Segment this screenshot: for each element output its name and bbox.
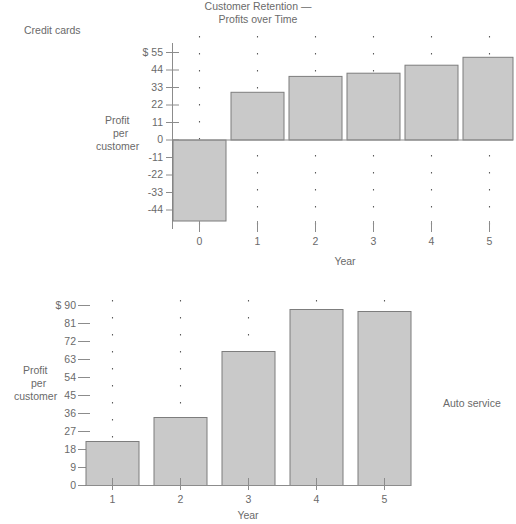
top-chart-x-tickmarks <box>200 221 490 232</box>
bottom-chart-y-axis-label-line-3: customer <box>14 390 58 402</box>
y-tick-label: 33 <box>151 81 163 93</box>
y-tick-label: 54 <box>64 371 76 383</box>
top-chart-y-tick-labels: $ 55 44 33 22 11 0 -11 -22 -33 -44 <box>143 46 164 215</box>
y-tick-label: 18 <box>64 443 76 455</box>
bar-year-4[interactable] <box>405 65 458 140</box>
top-chart-y-axis-label-line-1: Profit <box>105 114 130 126</box>
figure-title-line-1: Customer Retention — <box>205 0 312 12</box>
y-tick-label: -11 <box>149 151 164 163</box>
bar-year-4[interactable] <box>290 310 343 486</box>
figure-title: Customer Retention — Profits over Time <box>205 0 312 25</box>
y-tick-label: 22 <box>151 98 163 110</box>
y-tick-label: 44 <box>151 63 163 75</box>
bar-year-5[interactable] <box>358 312 411 486</box>
bar-year-1[interactable] <box>231 92 284 140</box>
x-tick-label: 3 <box>246 493 252 505</box>
figure-root: Customer Retention — Profits over Time C… <box>0 0 516 524</box>
y-tick-label: 27 <box>64 425 76 437</box>
x-tick-label: 2 <box>178 493 184 505</box>
x-tick-label: 4 <box>314 493 320 505</box>
bar-year-3[interactable] <box>347 73 400 140</box>
bar-year-2[interactable] <box>289 76 342 140</box>
bottom-chart-y-axis-label-line-2: per <box>31 377 47 389</box>
bottom-chart: Auto service Profit per customer <box>14 299 501 521</box>
bar-year-2[interactable] <box>154 418 207 486</box>
y-tick-label: 11 <box>152 116 163 128</box>
x-tick-label: 1 <box>255 235 261 247</box>
y-tick-label: 72 <box>64 335 76 347</box>
top-chart: Credit cards Profit per customer <box>24 24 513 267</box>
x-tick-label: 1 <box>110 493 116 505</box>
figure-title-line-2: Profits over Time <box>219 13 298 25</box>
bottom-chart-bars <box>86 310 411 486</box>
y-tick-label: 45 <box>64 389 76 401</box>
bar-year-0[interactable] <box>173 140 226 221</box>
x-tick-label: 2 <box>313 235 319 247</box>
bottom-chart-x-tick-labels: 1 2 3 4 5 <box>110 493 388 505</box>
y-tick-label: $ 90 <box>56 299 77 311</box>
y-tick-label: 36 <box>64 407 76 419</box>
bottom-chart-y-axis-label-line-1: Profit <box>23 364 48 376</box>
y-tick-label: 9 <box>70 461 76 473</box>
bottom-chart-side-label: Auto service <box>443 397 501 409</box>
top-chart-bars <box>173 57 513 221</box>
top-chart-x-tick-labels: 0 1 2 3 4 5 <box>197 235 493 247</box>
y-tick-label: $ 55 <box>143 46 164 58</box>
x-tick-label: 0 <box>197 235 203 247</box>
bottom-chart-y-axis-label: Profit per customer <box>14 364 58 402</box>
bar-year-3[interactable] <box>222 352 275 486</box>
y-tick-label: 0 <box>157 133 163 145</box>
y-tick-label: 0 <box>70 479 76 491</box>
y-tick-label: -44 <box>148 203 163 215</box>
bottom-chart-x-tickmarks <box>113 478 385 490</box>
top-chart-y-axis-label: Profit per customer <box>96 114 140 152</box>
x-tick-label: 4 <box>429 235 435 247</box>
y-tick-label: 81 <box>64 317 76 329</box>
x-tick-label: 5 <box>487 235 493 247</box>
bottom-chart-x-axis-title: Year <box>237 509 259 521</box>
top-chart-side-label: Credit cards <box>24 24 81 36</box>
y-tick-label: 63 <box>64 353 76 365</box>
top-chart-y-axis-label-line-3: customer <box>96 140 140 152</box>
top-chart-y-axis-label-line-2: per <box>113 127 129 139</box>
x-tick-label: 5 <box>382 493 388 505</box>
x-tick-label: 3 <box>371 235 377 247</box>
y-tick-label: -22 <box>148 168 163 180</box>
chart-canvas: Customer Retention — Profits over Time C… <box>0 0 516 524</box>
bar-year-5[interactable] <box>463 57 513 140</box>
y-tick-label: -33 <box>148 186 163 198</box>
top-chart-x-axis-title: Year <box>334 255 356 267</box>
bottom-chart-y-tick-labels: $ 90 81 72 63 54 45 36 27 18 9 0 <box>56 299 77 491</box>
